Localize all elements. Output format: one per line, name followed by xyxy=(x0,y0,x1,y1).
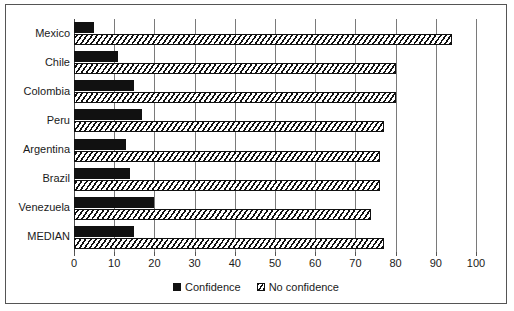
bar-group xyxy=(74,19,476,48)
category-label-colombia: Colombia xyxy=(24,86,70,97)
category-label-peru: Peru xyxy=(47,115,70,126)
category-label-brazil: Brazil xyxy=(42,173,70,184)
category-label-argentina: Argentina xyxy=(23,144,70,155)
chart-legend: ConfidenceNo confidence xyxy=(6,281,506,293)
bar-chile-confidence xyxy=(74,51,118,62)
bar-median-confidence xyxy=(74,226,134,237)
x-tick-mark-0 xyxy=(74,252,75,256)
bar-median-no-confidence xyxy=(74,238,384,249)
bar-colombia-no-confidence xyxy=(74,92,396,103)
bar-argentina-no-confidence xyxy=(74,151,380,162)
gridline-100 xyxy=(476,19,477,252)
category-label-mexico: Mexico xyxy=(35,28,70,39)
bar-group xyxy=(74,48,476,77)
bar-venezuela-confidence xyxy=(74,197,154,208)
x-tick-mark-90 xyxy=(436,252,437,256)
x-tick-mark-80 xyxy=(396,252,397,256)
x-tick-label-80: 80 xyxy=(389,257,401,269)
bar-group xyxy=(74,223,476,252)
x-tick-label-40: 40 xyxy=(229,257,241,269)
bar-peru-no-confidence xyxy=(74,121,384,132)
bar-peru-confidence xyxy=(74,109,142,120)
category-label-venezuela: Venezuela xyxy=(19,202,70,213)
bar-mexico-confidence xyxy=(74,22,94,33)
bar-brazil-confidence xyxy=(74,168,130,179)
bar-group xyxy=(74,136,476,165)
bar-group xyxy=(74,165,476,194)
bar-group xyxy=(74,194,476,223)
bar-venezuela-no-confidence xyxy=(74,209,371,220)
x-tick-label-60: 60 xyxy=(309,257,321,269)
legend-label: Confidence xyxy=(185,281,241,293)
bar-group xyxy=(74,77,476,106)
bar-colombia-confidence xyxy=(74,80,134,91)
x-tick-mark-40 xyxy=(235,252,236,256)
x-tick-label-100: 100 xyxy=(467,257,485,269)
legend-label: No confidence xyxy=(269,281,339,293)
x-tick-label-30: 30 xyxy=(188,257,200,269)
x-tick-label-90: 90 xyxy=(430,257,442,269)
legend-item-confidence: Confidence xyxy=(173,281,241,293)
bar-chile-no-confidence xyxy=(74,63,396,74)
bar-group xyxy=(74,106,476,135)
x-tick-label-0: 0 xyxy=(71,257,77,269)
x-tick-mark-70 xyxy=(355,252,356,256)
x-tick-label-50: 50 xyxy=(269,257,281,269)
category-axis-labels: MexicoChileColombiaPeruArgentinaBrazilVe… xyxy=(6,19,70,252)
plot-area xyxy=(74,19,476,252)
x-tick-label-70: 70 xyxy=(349,257,361,269)
bar-mexico-no-confidence xyxy=(74,34,452,45)
x-tick-label-20: 20 xyxy=(148,257,160,269)
x-tick-label-10: 10 xyxy=(108,257,120,269)
x-tick-mark-100 xyxy=(476,252,477,256)
chart-frame: MexicoChileColombiaPeruArgentinaBrazilVe… xyxy=(5,4,507,304)
bar-brazil-no-confidence xyxy=(74,180,380,191)
x-tick-mark-50 xyxy=(275,252,276,256)
hatched-square-icon xyxy=(257,283,265,291)
category-label-chile: Chile xyxy=(45,57,70,68)
x-tick-mark-60 xyxy=(315,252,316,256)
x-axis: 0102030405060708090100 xyxy=(74,252,476,274)
legend-item-no-confidence: No confidence xyxy=(257,281,339,293)
bar-argentina-confidence xyxy=(74,139,126,150)
x-tick-mark-20 xyxy=(154,252,155,256)
category-label-median: MEDIAN xyxy=(27,231,70,242)
x-tick-mark-10 xyxy=(114,252,115,256)
solid-square-icon xyxy=(173,283,181,291)
x-tick-mark-30 xyxy=(195,252,196,256)
